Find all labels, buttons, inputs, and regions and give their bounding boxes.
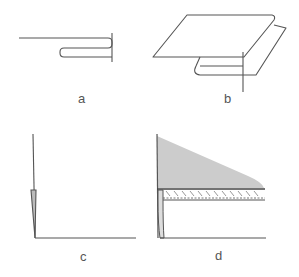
panel-d-drawing — [157, 134, 266, 238]
panel-a-drawing — [19, 33, 112, 62]
panel-label-b: b — [224, 92, 231, 105]
panel-label-c: c — [80, 250, 87, 263]
panel-label-d: d — [215, 249, 222, 262]
panel-b-drawing — [153, 15, 286, 92]
figure-diagram — [0, 0, 299, 277]
panel-label-a: a — [78, 92, 85, 105]
panel-c-drawing — [31, 134, 136, 238]
